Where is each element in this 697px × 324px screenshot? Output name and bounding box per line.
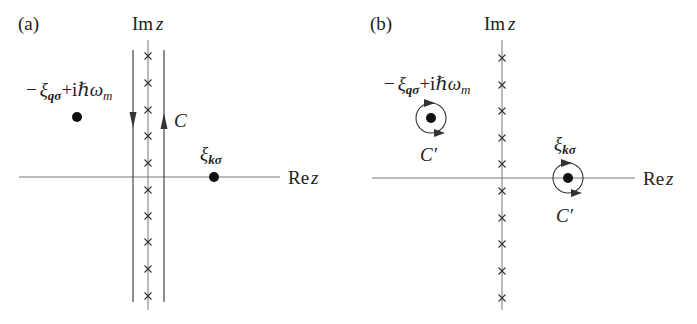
panel-a-label: (a) <box>18 13 39 35</box>
pole-left-label: −ξqσ+iℏωm <box>26 79 112 103</box>
pole-left-label: −ξqσ+iℏωm <box>384 73 470 97</box>
arrow-right-icon <box>561 159 572 167</box>
pole-left-dot <box>72 112 82 122</box>
arrow-up-icon <box>161 113 168 129</box>
im-axis-label: Imz <box>132 13 164 34</box>
contour-label-left: C′ <box>420 144 438 165</box>
pole-left-dot <box>426 113 436 123</box>
contour-label: C <box>174 110 187 131</box>
arrow-right-icon <box>424 99 435 107</box>
pole-right-label: ξkσ <box>200 143 223 167</box>
panel-b: (b) Imz Rez −ξqσ+iℏωm C′ ξkσ C′ <box>370 13 674 310</box>
pole-right-label: ξkσ <box>554 133 577 157</box>
contour-diagram: (a) Imz Rez C −ξqσ+iℏωm ξkσ (b) Imz <box>0 0 697 324</box>
im-axis-label: Imz <box>484 13 516 34</box>
re-axis-label: Rez <box>288 167 319 188</box>
pole-right-dot <box>563 173 573 183</box>
arrow-down-icon <box>130 112 137 128</box>
re-axis-label: Rez <box>643 168 674 189</box>
pole-right-dot <box>209 172 219 182</box>
contour-label-right: C′ <box>556 205 574 226</box>
panel-b-label: (b) <box>370 13 392 35</box>
panel-a: (a) Imz Rez C −ξqσ+iℏωm ξkσ <box>18 13 319 310</box>
